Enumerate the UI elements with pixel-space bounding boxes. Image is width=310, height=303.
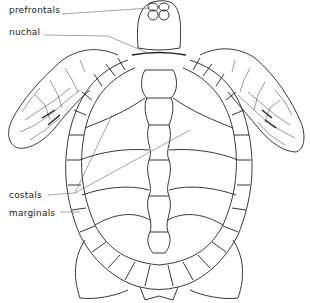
label-marginals: marginals	[9, 208, 55, 218]
right-flipper	[200, 49, 304, 152]
label-prefrontals: prefrontals	[9, 5, 60, 15]
label-costals: costals	[9, 190, 42, 200]
label-nuchal: nuchal	[9, 27, 40, 37]
rear-flippers	[75, 240, 242, 300]
carapace	[66, 53, 252, 290]
turtle-drawing	[0, 0, 310, 303]
left-flipper	[9, 50, 118, 149]
